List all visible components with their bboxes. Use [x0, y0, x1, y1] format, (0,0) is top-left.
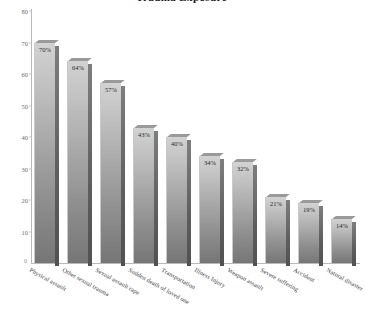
bar: 70%: [34, 43, 55, 264]
x-axis-category-label: Weapon assault: [227, 266, 265, 291]
x-axis-line: [31, 263, 360, 264]
bar-value-label: 34%: [200, 159, 220, 166]
bar-value-label: 14%: [332, 222, 352, 229]
bar: 40%: [166, 137, 187, 263]
bar: 34%: [199, 156, 220, 263]
chart-title: Trauma Exposure: [0, 0, 363, 3]
bar-value-label: 19%: [299, 206, 319, 213]
y-axis-tick-mark: [29, 168, 32, 169]
x-axis-category-label: Accident: [293, 266, 317, 283]
axis-origin-label: 0: [24, 258, 27, 264]
bar: 64%: [67, 61, 88, 263]
bar: 21%: [265, 197, 286, 263]
bar-value-label: 57%: [101, 86, 121, 93]
x-axis-category-label: Illness Injury: [194, 266, 227, 289]
bar: 19%: [298, 203, 319, 263]
bar-value-label: 40%: [167, 140, 187, 147]
x-axis-category-label: Natural disaster: [326, 266, 365, 292]
y-axis-tick-mark: [29, 11, 32, 12]
y-axis-tick-mark: [29, 42, 32, 43]
bar-value-label: 32%: [233, 165, 253, 172]
bar-value-label: 21%: [266, 200, 286, 207]
bar: 14%: [331, 219, 352, 263]
plot-area: 102030405060708070%64%57%43%40%34%32%21%…: [31, 11, 361, 263]
bar-value-label: 70%: [35, 46, 55, 53]
bar: 57%: [100, 83, 121, 263]
y-axis-tick-mark: [29, 231, 32, 232]
y-axis-tick-mark: [29, 200, 32, 201]
y-axis-tick-mark: [29, 137, 32, 138]
y-axis-tick-mark: [29, 105, 32, 106]
y-axis-tick-mark: [29, 74, 32, 75]
bar-value-label: 43%: [134, 131, 154, 138]
bar: 43%: [133, 128, 154, 263]
bar-value-label: 64%: [68, 64, 88, 71]
bar: 32%: [232, 162, 253, 263]
